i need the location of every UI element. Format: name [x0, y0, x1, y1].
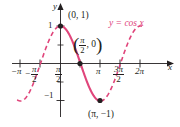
- point-label-tail: , 0: [87, 40, 97, 50]
- pi-over-2-fraction: π 2: [79, 36, 85, 54]
- y-axis-label: y: [53, 2, 57, 11]
- fraction-denominator: 2: [79, 45, 85, 55]
- point-marker-minimum: [97, 98, 102, 103]
- fraction-denominator: 2: [31, 74, 38, 84]
- fraction-denominator: 2: [55, 74, 62, 84]
- fraction-numerator: 3π: [113, 65, 124, 74]
- x-tick-label-minus-pi-over-2: − π 2: [31, 65, 38, 84]
- y-tick-label-minus-1: −1: [44, 91, 54, 100]
- minus-sign: −: [25, 69, 30, 78]
- x-axis-label: x: [168, 63, 172, 72]
- cosine-graph-figure: y x 1 −1 −π π 2π − π 2 π 2 3π 2 (0, 1) (…: [0, 0, 180, 127]
- plot-canvas: [0, 0, 180, 127]
- y-tick-label-1: 1: [48, 21, 53, 30]
- x-tick-label-pi-over-2: π 2: [55, 65, 62, 84]
- y-axis-arrow-icon: [57, 3, 63, 10]
- x-tick-label-minus-pi: −π: [11, 67, 22, 76]
- point-marker-x-intercept: [77, 61, 82, 66]
- fraction-numerator: π: [31, 65, 38, 74]
- point-marker-y-intercept: [58, 23, 63, 28]
- point-label-minimum: (π, −1): [88, 110, 114, 120]
- curve-equation-label: y = cos x: [109, 19, 144, 29]
- x-tick-label-2pi: 2π: [135, 67, 144, 76]
- fraction-numerator: π: [55, 65, 62, 74]
- x-tick-label-3pi-over-2: 3π 2: [113, 65, 124, 84]
- right-paren: ): [96, 37, 102, 53]
- x-tick-label-pi: π: [96, 67, 101, 76]
- fraction-denominator: 2: [113, 74, 124, 84]
- point-label-y-intercept: (0, 1): [68, 11, 89, 21]
- point-label-x-intercept: ( π 2 , 0 ): [73, 36, 102, 54]
- fraction-numerator: π: [79, 36, 85, 45]
